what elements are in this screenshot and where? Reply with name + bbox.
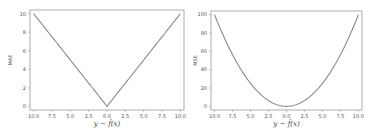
mae-y-tick-label: 2 — [23, 85, 26, 91]
mse-y-tick-label: 40 — [201, 66, 207, 72]
mae-x-tick-label: 10.0 — [175, 113, 186, 119]
mae-x-tick-label: 10.0 — [28, 113, 39, 119]
mae-x-axis-label: y − f̂(x) — [93, 118, 121, 128]
mae-y-tick-label: 8 — [23, 29, 26, 35]
mse-x-tick-label: 2.5 — [265, 113, 273, 119]
mse-y-axis-label: MSE — [192, 55, 198, 66]
mse-x-tick-label: 5.0 — [318, 113, 326, 119]
mae-x-tick-label: 7.5 — [48, 113, 56, 119]
mse-x-tick-label: 10.0 — [353, 113, 364, 119]
mse-y-tick-label: 100 — [197, 11, 207, 17]
mse-y-tick-label: 80 — [201, 30, 207, 36]
mae-plot-frame — [30, 10, 184, 110]
mse-x-axis-label: y − f̂(x) — [272, 118, 300, 128]
mae-y-tick-label: 6 — [23, 48, 26, 54]
mse-y-axis: 020406080100 — [197, 11, 211, 109]
mae-chart-panel: 0246810 10.07.55.02.50.02.55.07.510.0 MA… — [7, 10, 186, 128]
mae-y-tick-label: 10 — [20, 11, 26, 17]
mae-x-tick-label: 2.5 — [85, 113, 93, 119]
mae-y-tick-label: 0 — [23, 103, 26, 109]
mae-x-tick-label: 5.0 — [66, 113, 74, 119]
mse-x-tick-label: 0.0 — [283, 113, 291, 119]
mae-x-tick-label: 2.5 — [121, 113, 129, 119]
charts-figure: 0246810 10.07.55.02.50.02.55.07.510.0 MA… — [0, 0, 380, 137]
mse-x-tick-label: 7.5 — [229, 113, 237, 119]
mae-x-tick-label: 5.0 — [140, 113, 148, 119]
mse-x-tick-label: 7.5 — [336, 113, 344, 119]
mae-x-tick-label: 0.0 — [103, 113, 111, 119]
mae-curve — [34, 14, 181, 107]
mse-curve — [215, 15, 359, 107]
mse-x-tick-label: 5.0 — [247, 113, 255, 119]
mae-y-tick-label: 4 — [23, 66, 26, 72]
mse-x-axis: 10.07.55.02.50.02.55.07.510.0 — [209, 110, 364, 119]
mse-x-tick-label: 2.5 — [300, 113, 308, 119]
mse-chart-panel: 020406080100 10.07.55.02.50.02.55.07.510… — [192, 11, 364, 128]
mae-x-axis: 10.07.55.02.50.02.55.07.510.0 — [28, 110, 186, 119]
mse-y-tick-label: 0 — [204, 103, 207, 109]
mse-y-tick-label: 20 — [201, 85, 207, 91]
mae-y-axis-label: MAE — [7, 55, 13, 66]
mse-y-tick-label: 60 — [201, 48, 207, 54]
mse-plot-frame — [211, 11, 362, 110]
mae-y-axis: 0246810 — [20, 11, 30, 110]
mse-x-tick-label: 10.0 — [209, 113, 220, 119]
mae-x-tick-label: 7.5 — [158, 113, 166, 119]
